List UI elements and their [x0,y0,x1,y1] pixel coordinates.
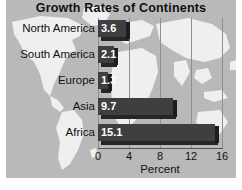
bar-europe[interactable]: 1.3 [98,72,108,89]
category-label-asia: Asia [73,98,95,115]
bar-north-america[interactable]: 3.6 [98,20,126,37]
bar-side-face [173,100,177,117]
bar-side-face [215,126,219,143]
bar-value-africa: 15.1 [101,125,122,140]
chart-title: Growth Rates of Continents [6,1,236,15]
bar-asia[interactable]: 9.7 [98,98,173,115]
category-label-south-america: South America [20,46,95,63]
gridline-16 [222,18,223,148]
bar-south-america[interactable]: 2.1 [98,46,114,63]
bar-side-face [126,22,130,39]
bar-rows: North America 3.6 South America 2.1 [98,18,222,148]
bar-africa[interactable]: 15.1 [98,124,215,141]
x-tick-16: 16 [212,150,232,162]
x-tick-8: 8 [150,150,170,162]
x-tick-4: 4 [119,150,139,162]
bar-bottom-face [101,115,176,119]
chart-panel: Growth Rates of Continents North America… [6,0,236,178]
x-tick-0: 0 [88,150,108,162]
bar-value-asia: 9.7 [101,99,116,114]
bar-bottom-face [101,37,129,41]
bar-value-north-america: 3.6 [101,21,116,36]
bar-value-south-america: 2.1 [101,47,116,62]
bar-bottom-face [101,141,218,145]
x-axis-title: Percent [98,163,222,175]
growth-rates-chart: Growth Rates of Continents North America… [0,0,242,190]
x-tick-12: 12 [181,150,201,162]
category-label-africa: Africa [66,124,95,141]
x-axis-line [98,148,223,149]
plot-area: North America 3.6 South America 2.1 [98,18,222,148]
bar-value-europe: 1.3 [101,73,116,88]
category-label-europe: Europe [58,72,95,89]
category-label-north-america: North America [22,20,95,37]
